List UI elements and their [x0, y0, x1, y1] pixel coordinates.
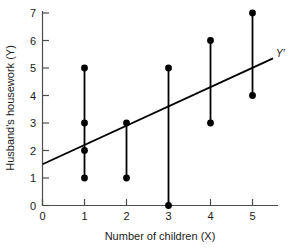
data-point	[81, 65, 88, 72]
y-tick-label-6: 6	[30, 35, 36, 47]
data-point	[249, 92, 256, 99]
scatter-plot-figure: 0 1 2 3 4 5 6 7 0 1 2 3 4 5	[0, 0, 291, 248]
data-point	[81, 175, 88, 182]
data-point	[81, 120, 88, 127]
plot-canvas: 0 1 2 3 4 5 6 7 0 1 2 3 4 5	[0, 0, 291, 248]
data-point	[207, 37, 214, 44]
x-tick-label-1: 1	[81, 210, 87, 222]
y-tick-labels: 0 1 2 3 4 5 6 7	[30, 7, 36, 212]
x-tick-label-4: 4	[207, 210, 213, 222]
y-tick-label-7: 7	[30, 7, 36, 19]
point-connectors	[85, 13, 253, 206]
data-point	[123, 120, 130, 127]
data-point	[207, 120, 214, 127]
x-axis-title: Number of children (X)	[105, 230, 216, 242]
y-tick-label-2: 2	[30, 145, 36, 157]
data-point	[165, 202, 172, 209]
x-tick-label-0: 0	[39, 210, 45, 222]
regression-line	[43, 58, 274, 164]
data-point	[81, 147, 88, 154]
axes-group	[42, 11, 278, 206]
data-point	[249, 10, 256, 17]
regression-line-label: Y′	[276, 48, 286, 59]
y-axis-title: Husband's housework (Y)	[4, 45, 16, 171]
data-point	[123, 175, 130, 182]
x-tick-label-3: 3	[165, 210, 171, 222]
y-tick-label-4: 4	[30, 90, 36, 102]
y-tick-label-3: 3	[30, 117, 36, 129]
data-point	[165, 65, 172, 72]
y-tick-label-5: 5	[30, 62, 36, 74]
x-tick-label-5: 5	[249, 210, 255, 222]
x-tick-marks	[43, 199, 253, 206]
x-tick-label-2: 2	[123, 210, 129, 222]
y-tick-label-0: 0	[30, 200, 36, 212]
y-tick-label-1: 1	[30, 172, 36, 184]
x-tick-labels: 0 1 2 3 4 5	[39, 210, 255, 222]
y-tick-marks	[43, 13, 50, 206]
